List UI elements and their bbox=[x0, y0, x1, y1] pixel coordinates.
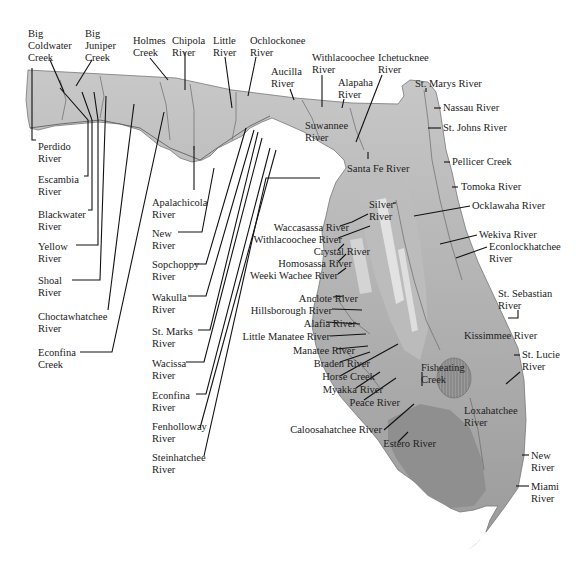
label-line: Econfina bbox=[38, 347, 76, 359]
label-withlacoochee-river-north: WithlacoocheeRiver bbox=[312, 52, 375, 76]
label-alafia-river: Alafia River bbox=[304, 318, 356, 330]
label-line: Weeki Wachee River bbox=[250, 270, 338, 282]
label-line: Pellicer Creek bbox=[452, 156, 512, 168]
label-myakka-river: Myakka River bbox=[323, 384, 383, 396]
label-fenholloway-river: FenhollowayRiver bbox=[152, 421, 207, 445]
florida-keys bbox=[468, 530, 488, 550]
label-econfina-river: EconfinaRiver bbox=[152, 390, 190, 414]
label-line: River bbox=[531, 493, 559, 505]
label-homosassa-river: Homosassa River bbox=[278, 258, 352, 270]
label-line: Juniper bbox=[85, 40, 116, 52]
label-wekiva-river: Wekiva River bbox=[479, 229, 537, 241]
label-line: River bbox=[152, 433, 207, 445]
label-braden-river: Braden River bbox=[314, 358, 370, 370]
label-line: Nassau River bbox=[443, 102, 499, 114]
label-peace-river: Peace River bbox=[350, 397, 400, 409]
label-line: Withlacoochee River bbox=[254, 234, 343, 246]
label-line: Silver bbox=[369, 199, 394, 211]
label-fisheating-creek: FisheatingCreek bbox=[421, 362, 465, 386]
label-line: Waccasassa River bbox=[274, 222, 349, 234]
label-line: Creek bbox=[38, 359, 76, 371]
label-line: Hillsborough River bbox=[251, 305, 332, 317]
label-line: St. Johns River bbox=[443, 122, 507, 134]
label-line: River bbox=[338, 89, 373, 101]
label-yellow-river: YellowRiver bbox=[38, 241, 68, 265]
label-wakulla-river: WakullaRiver bbox=[152, 292, 187, 316]
label-st-sebastian-river: St. SebastianRiver bbox=[498, 288, 552, 312]
label-ocklawaha-river: Ocklawaha River bbox=[472, 200, 545, 212]
label-line: River bbox=[152, 304, 187, 316]
label-line: Creek bbox=[133, 47, 166, 59]
label-chipola-river: ChipolaRiver bbox=[172, 35, 205, 59]
label-st-lucie-river: St. LucieRiver bbox=[522, 349, 560, 373]
label-line: River bbox=[152, 370, 186, 382]
label-line: Econlockhatchee bbox=[489, 241, 561, 253]
label-line: River bbox=[152, 209, 207, 221]
label-line: Caloosahatchee River bbox=[290, 424, 382, 436]
label-line: River bbox=[38, 253, 68, 265]
label-line: River bbox=[522, 361, 560, 373]
label-line: Creek bbox=[85, 52, 116, 64]
label-sopchoppy-river: SopchoppyRiver bbox=[152, 259, 199, 283]
label-line: Wacissa bbox=[152, 358, 186, 370]
label-big-juniper-creek: BigJuniperCreek bbox=[85, 28, 116, 64]
label-line: Coldwater bbox=[28, 40, 72, 52]
label-line: River bbox=[172, 47, 205, 59]
label-perdido-river: PerdidoRiver bbox=[38, 141, 71, 165]
label-line: Big bbox=[85, 28, 116, 40]
label-st-marys-river: St. Marys River bbox=[415, 78, 482, 90]
label-new-river-panhandle: NewRiver bbox=[152, 228, 175, 252]
label-holmes-creek: HolmesCreek bbox=[133, 35, 166, 59]
label-big-coldwater-creek: BigColdwaterCreek bbox=[28, 28, 72, 64]
label-line: Econfina bbox=[152, 390, 190, 402]
label-st-johns-river: St. Johns River bbox=[443, 122, 507, 134]
label-line: St. Marks bbox=[152, 326, 193, 338]
label-st-marks-river: St. MarksRiver bbox=[152, 326, 193, 350]
label-line: Big bbox=[28, 28, 72, 40]
label-econfina-creek: EconfinaCreek bbox=[38, 347, 76, 371]
label-line: St. Lucie bbox=[522, 349, 560, 361]
label-line: Ichetucknee bbox=[378, 52, 429, 64]
label-loxahatchee-river: LoxahatcheeRiver bbox=[464, 405, 518, 429]
label-ichetucknee-river: IchetuckneeRiver bbox=[378, 52, 429, 76]
label-line: Alafia River bbox=[304, 318, 356, 330]
label-line: Suwannee bbox=[305, 120, 348, 132]
label-line: Fisheating bbox=[421, 362, 465, 374]
label-line: River bbox=[152, 338, 193, 350]
label-line: Sopchoppy bbox=[152, 259, 199, 271]
label-manatee-river: Manatee River bbox=[293, 345, 355, 357]
label-little-manatee-river: Little Manatee River bbox=[243, 331, 330, 343]
label-waccasassa-river: Waccasassa River bbox=[274, 222, 349, 234]
label-line: Horse Creek bbox=[322, 371, 375, 383]
label-line: River bbox=[369, 211, 394, 223]
label-line: River bbox=[498, 300, 552, 312]
label-santa-fe-river: Santa Fe River bbox=[347, 163, 409, 175]
label-line: Little bbox=[213, 35, 236, 47]
label-steinhatchee-river: SteinhatcheeRiver bbox=[152, 452, 206, 476]
label-line: River bbox=[312, 64, 375, 76]
label-tomoka-river: Tomoka River bbox=[461, 181, 521, 193]
label-pellicer-creek: Pellicer Creek bbox=[452, 156, 512, 168]
label-line: Alapaha bbox=[338, 77, 373, 89]
label-hillsborough-river: Hillsborough River bbox=[251, 305, 332, 317]
label-line: Wekiva River bbox=[479, 229, 537, 241]
label-line: Little Manatee River bbox=[243, 331, 330, 343]
label-line: Myakka River bbox=[323, 384, 383, 396]
label-line: River bbox=[38, 153, 71, 165]
label-withlacoochee-river-south: Withlacoochee River bbox=[254, 234, 343, 246]
label-weeki-wachee-river: Weeki Wachee River bbox=[250, 270, 338, 282]
label-escambia-river: EscambiaRiver bbox=[38, 174, 79, 198]
label-horse-creek: Horse Creek bbox=[322, 371, 375, 383]
label-estero-river: Estero River bbox=[383, 438, 436, 450]
label-line: Peace River bbox=[350, 397, 400, 409]
label-wacissa-river: WacissaRiver bbox=[152, 358, 186, 382]
label-caloosahatchee-river: Caloosahatchee River bbox=[290, 424, 382, 436]
label-line: River bbox=[271, 78, 302, 90]
label-line: Steinhatchee bbox=[152, 452, 206, 464]
label-line: Perdido bbox=[38, 141, 71, 153]
label-choctawhatchee-river: ChoctawhatcheeRiver bbox=[38, 311, 107, 335]
label-line: River bbox=[531, 462, 554, 474]
label-shoal-river: ShoalRiver bbox=[38, 275, 62, 299]
label-line: Apalachicola bbox=[152, 197, 207, 209]
label-line: Aucilla bbox=[271, 66, 302, 78]
